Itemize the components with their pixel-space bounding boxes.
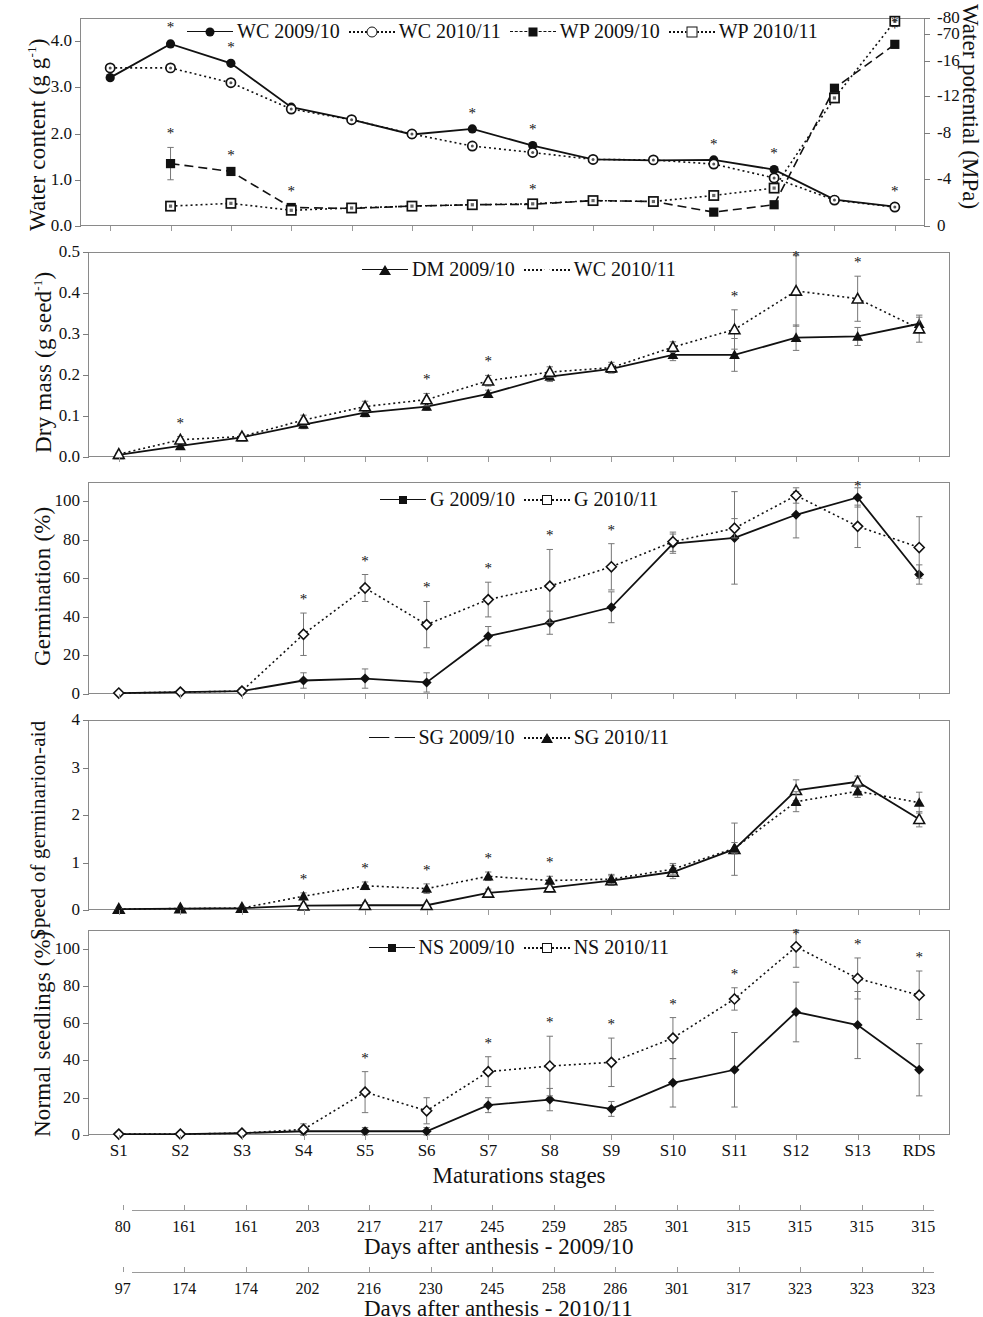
significance-star: * xyxy=(300,591,308,607)
legend-label: NS 2009/10 xyxy=(419,936,515,959)
days-tick-mark xyxy=(308,1205,309,1210)
significance-star: * xyxy=(891,183,899,199)
plot-canvas-B: ****** xyxy=(88,252,950,457)
y-tick-mark xyxy=(83,457,89,458)
days-tick-mark xyxy=(492,1205,493,1210)
series-0: * xyxy=(114,478,924,698)
days-value: 323 xyxy=(832,1280,892,1298)
x-tick-mark xyxy=(895,226,896,231)
x-tick-mark xyxy=(180,694,181,699)
y-axis-title-tail: ) xyxy=(25,39,50,47)
legend-symbol-square-open xyxy=(669,25,715,39)
days-tick-mark xyxy=(923,1267,924,1272)
legend-marker xyxy=(386,733,398,743)
legend-symbol-diamond-filled xyxy=(369,941,415,955)
x-tick-mark xyxy=(180,1135,181,1140)
legend-item: WC 2009/10 xyxy=(187,20,340,43)
legend-item: DM 2009/10 xyxy=(362,258,515,281)
significance-star: * xyxy=(484,353,492,369)
days-value: 80 xyxy=(93,1218,153,1236)
x-tick-mark xyxy=(304,910,305,915)
legend-item: WP 2009/10 xyxy=(510,20,660,43)
x-tick-mark xyxy=(673,910,674,915)
x-tick-mark xyxy=(365,910,366,915)
legend-item: SG 2010/11 xyxy=(524,726,669,749)
legend-item: WC 2010/11 xyxy=(524,258,676,281)
days-value: 315 xyxy=(832,1218,892,1236)
series-2: ******* xyxy=(166,20,899,217)
legend-label: DM 2009/10 xyxy=(412,258,515,281)
y2-tick-mark xyxy=(924,226,930,227)
legend-marker xyxy=(379,265,391,275)
legend-marker xyxy=(206,27,215,36)
legend-marker xyxy=(542,495,552,505)
legend-label: WC 2009/10 xyxy=(237,20,340,43)
significance-star: * xyxy=(529,121,537,137)
legend-item: SG 2009/10 xyxy=(369,726,515,749)
x-tick-mark xyxy=(119,457,120,462)
x-axis-title: Maturations stages xyxy=(379,1163,659,1189)
days-value: 301 xyxy=(647,1218,707,1236)
x-tick-mark xyxy=(488,1135,489,1140)
x-tick-mark xyxy=(796,457,797,462)
series-0: ******* xyxy=(106,19,900,211)
x-tick-mark xyxy=(796,910,797,915)
legend-symbol-triangle-filled xyxy=(362,263,408,277)
legend-marker xyxy=(388,944,396,952)
x-tick-mark xyxy=(774,226,775,231)
days-value: 315 xyxy=(709,1218,769,1236)
days-tick-mark xyxy=(184,1267,185,1272)
significance-star: * xyxy=(423,862,431,878)
legend-symbol-square-filled xyxy=(510,25,556,39)
x-tick-mark xyxy=(673,1135,674,1140)
legend-item: G 2010/11 xyxy=(524,488,658,511)
significance-star: * xyxy=(177,415,185,431)
x-tick-mark xyxy=(735,457,736,462)
legend-item: G 2009/10 xyxy=(380,488,515,511)
y2-tick-label: -8 xyxy=(937,123,951,143)
x-tick-mark xyxy=(291,226,292,231)
x-tick-mark xyxy=(488,910,489,915)
days-tick-mark xyxy=(492,1267,493,1272)
significance-star: * xyxy=(529,181,537,197)
series-0 xyxy=(114,982,924,1139)
days-strip-title: Days after anthesis - 2010/11 xyxy=(364,1296,633,1317)
x-tick-mark xyxy=(593,226,594,231)
days-tick-mark xyxy=(246,1267,247,1272)
x-tick-mark xyxy=(673,457,674,462)
x-tick-mark xyxy=(365,694,366,699)
significance-star: * xyxy=(469,105,477,121)
x-axis-category-label: S9 xyxy=(581,1141,641,1161)
significance-star: * xyxy=(608,1016,616,1032)
days-tick-mark xyxy=(739,1205,740,1210)
days-value: 301 xyxy=(647,1280,707,1298)
x-axis-category-label: S11 xyxy=(705,1141,765,1161)
days-value: 315 xyxy=(893,1218,953,1236)
days-strip-2 xyxy=(132,1272,934,1273)
y2-tick-label: -4 xyxy=(937,169,951,189)
significance-star: * xyxy=(484,850,492,866)
x-axis-category-label: S1 xyxy=(89,1141,149,1161)
x-axis-category-label: S3 xyxy=(212,1141,272,1161)
x-tick-mark xyxy=(714,226,715,231)
days-value: 202 xyxy=(278,1280,338,1298)
significance-star: * xyxy=(361,860,369,876)
panel-B: 0.00.10.20.30.40.5Dry mass (g seed-1)***… xyxy=(0,252,983,457)
x-tick-mark xyxy=(919,1135,920,1140)
legend-symbol-diamond-open xyxy=(524,493,570,507)
legend-symbol-diamond-open xyxy=(524,941,570,955)
x-tick-mark xyxy=(119,1135,120,1140)
significance-star: * xyxy=(484,1035,492,1051)
days-tick-mark xyxy=(123,1205,124,1210)
days-value: 97 xyxy=(93,1280,153,1298)
days-tick-mark xyxy=(369,1205,370,1210)
legend-marker xyxy=(399,496,407,504)
x-tick-mark xyxy=(304,694,305,699)
legend-marker xyxy=(686,26,697,37)
days-tick-mark xyxy=(615,1267,616,1272)
significance-star: * xyxy=(792,926,800,942)
days-tick-mark xyxy=(677,1267,678,1272)
significance-star: * xyxy=(915,949,923,965)
legend-label: G 2009/10 xyxy=(430,488,515,511)
legend-marker xyxy=(366,26,377,37)
